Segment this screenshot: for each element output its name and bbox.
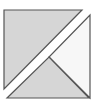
triangle-puzzle-diagram <box>0 0 100 106</box>
